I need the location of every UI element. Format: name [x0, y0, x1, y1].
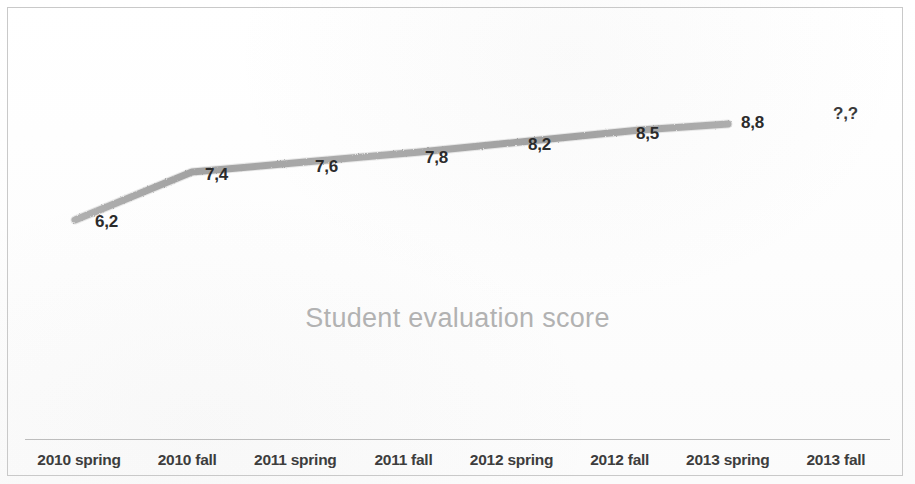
category-axis-line: [25, 439, 890, 440]
series-line: [75, 124, 728, 220]
axis-label-7: 2013 fall: [782, 451, 890, 468]
data-label-0: 6,2: [95, 213, 118, 230]
axis-label-1: 2010 fall: [133, 451, 241, 468]
axis-label-3: 2011 fall: [349, 451, 457, 468]
data-label-1: 7,4: [205, 166, 228, 183]
axis-label-0: 2010 spring: [25, 451, 133, 468]
chart-screenshot: 6,27,47,67,88,28,58,8?,? Student evaluat…: [0, 0, 915, 484]
data-label-5: 8,5: [636, 125, 659, 142]
data-label-6: 8,8: [741, 114, 764, 131]
data-label-2: 7,6: [315, 158, 338, 175]
chart-title: Student evaluation score: [0, 303, 915, 334]
axis-label-5: 2012 fall: [566, 451, 674, 468]
category-axis-labels: 2010 spring2010 fall2011 spring2011 fall…: [25, 451, 890, 479]
data-label-unknown: ?,?: [833, 105, 858, 122]
plot-area: 6,27,47,67,88,28,58,8?,? Student evaluat…: [0, 0, 915, 484]
axis-label-6: 2013 spring: [674, 451, 782, 468]
data-label-3: 7,8: [425, 149, 448, 166]
data-label-4: 8,2: [528, 136, 551, 153]
axis-label-4: 2012 spring: [458, 451, 566, 468]
axis-label-2: 2011 spring: [241, 451, 349, 468]
series-line-shadow: [75, 124, 728, 220]
series-line-chart: [0, 0, 915, 484]
